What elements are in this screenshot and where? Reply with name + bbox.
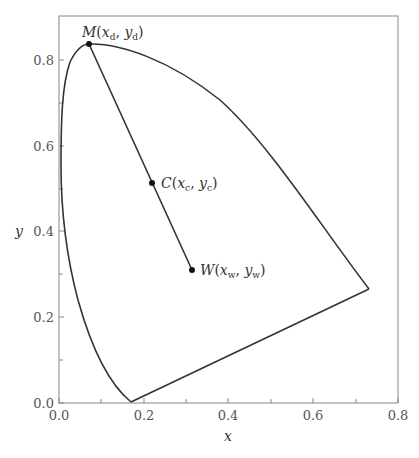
y-tick-label: 0.2 [33,310,54,325]
x-tick-label: 0.2 [134,408,155,423]
y-tick-label: 0.0 [33,396,54,411]
point-W-label: W(xw, yw) [200,262,266,280]
point-C-label: C(xc, yc) [161,175,217,193]
point-C-marker [149,180,155,186]
chromaticity-chart: 0.0 0.2 0.4 0.6 0.8 0.0 0.2 0.4 0.6 0.8 … [0,0,419,458]
x-axis-ticks [59,398,398,403]
point-M-marker [86,41,92,47]
point-M-label: M(xd, yd) [81,24,144,42]
x-tick-label: 0.4 [218,408,239,423]
y-tick-label: 0.8 [33,53,54,68]
x-tick-label: 0.6 [303,408,324,423]
dominant-wavelength-line [89,44,192,270]
point-W-marker [189,267,195,273]
y-tick-label: 0.4 [33,224,54,239]
x-tick-label: 0.8 [388,408,409,423]
purple-line [131,289,369,402]
plot-frame [59,16,398,403]
y-axis-label: y [14,223,24,239]
x-axis-label: x [224,428,232,444]
y-tick-label: 0.6 [33,139,54,154]
spectral-locus-curve [61,44,369,402]
